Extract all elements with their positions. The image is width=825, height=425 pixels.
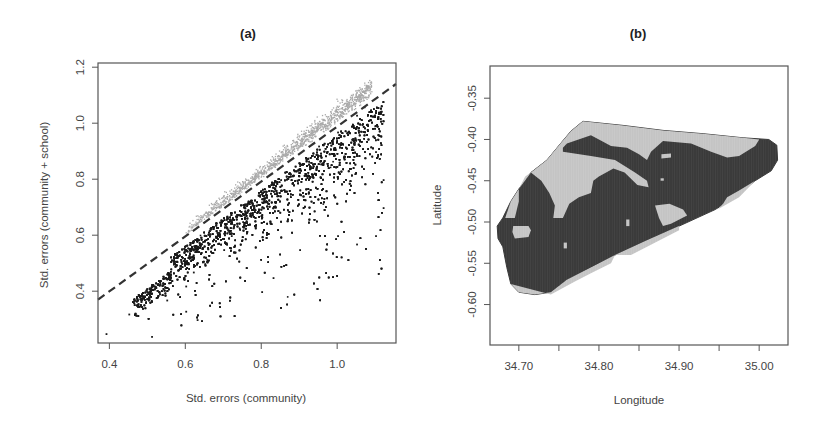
- x-axis-a: 0.40.60.81.0: [101, 343, 345, 370]
- panel-a-scatter-chart: (a) 0.40.60.81.0 0.40.60.81.01.2 Std. er…: [0, 0, 415, 425]
- panel-b-map-chart: (b) 34.7034.8034.9035.00 -0.35-0.40-0.45…: [415, 0, 825, 425]
- chart-title-a: (a): [240, 26, 256, 41]
- reference-dashed-line: [98, 84, 396, 300]
- x-axis-label-a: Std. errors (community): [186, 392, 306, 404]
- region-map: [497, 121, 777, 294]
- region-light-patch: [512, 226, 531, 238]
- y-tick-label: 1.0: [74, 115, 86, 131]
- scatter-points: [106, 80, 385, 338]
- x-tick-label: 0.4: [101, 358, 118, 370]
- x-tick-label: 1.0: [329, 358, 345, 370]
- region-light-patch: [626, 220, 629, 227]
- y-tick-label: -0.60: [466, 291, 478, 317]
- region-light-patch: [661, 154, 671, 159]
- x-tick-label: 35.00: [745, 360, 774, 372]
- y-tick-label: 1.2: [74, 59, 86, 75]
- x-tick-label: 34.90: [665, 360, 694, 372]
- x-axis-b: 34.7034.8034.9035.00: [504, 345, 773, 372]
- y-axis-label-b: Latitude: [431, 185, 443, 226]
- x-tick-label: 34.80: [585, 360, 614, 372]
- y-tick-label: -0.50: [466, 209, 478, 235]
- chart-title-b: (b): [630, 26, 647, 41]
- x-tick-label: 34.70: [504, 360, 533, 372]
- region-light-patch: [661, 178, 664, 180]
- y-tick-label: 0.4: [74, 283, 86, 300]
- y-axis-b: -0.35-0.40-0.45-0.50-0.55-0.60: [466, 85, 490, 318]
- y-axis-a: 0.40.60.81.01.2: [74, 59, 98, 299]
- y-tick-label: -0.40: [466, 126, 478, 152]
- region-light-patch: [564, 243, 567, 249]
- y-axis-label-a: Std. errors (community + school): [38, 122, 50, 289]
- plot-frame-a: [98, 63, 396, 343]
- x-tick-label: 0.6: [177, 358, 193, 370]
- y-tick-label: 0.6: [74, 227, 86, 243]
- y-tick-label: -0.55: [466, 250, 478, 276]
- y-tick-label: -0.35: [466, 85, 478, 111]
- x-axis-label-b: Longitude: [614, 394, 665, 406]
- y-tick-label: -0.45: [466, 168, 478, 194]
- y-tick-label: 0.8: [74, 171, 86, 187]
- x-tick-label: 0.8: [253, 358, 269, 370]
